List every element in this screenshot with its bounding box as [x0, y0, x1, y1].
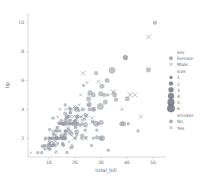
x-tick-label: 50 — [150, 160, 156, 165]
data-point — [109, 67, 115, 73]
data-point — [123, 55, 128, 60]
data-point — [70, 132, 74, 136]
legend-entry-label: 3 — [177, 88, 180, 93]
data-point — [98, 92, 103, 97]
legend-title: smoker — [177, 113, 194, 118]
legend-entry-label: 1 — [177, 75, 180, 80]
legend-marker-circle-icon — [167, 105, 175, 113]
data-point — [75, 115, 79, 119]
y-tick-label: 4 — [21, 107, 24, 112]
data-point — [36, 151, 39, 154]
data-point — [55, 137, 58, 140]
legend-entry-label: 6 — [177, 106, 180, 111]
data-point — [83, 123, 88, 128]
figure-background — [0, 0, 207, 181]
data-point — [84, 129, 87, 132]
data-point — [100, 84, 105, 89]
data-point — [114, 98, 118, 102]
data-point — [74, 107, 79, 112]
data-point — [70, 122, 73, 125]
data-point — [86, 97, 91, 102]
data-point — [88, 90, 93, 95]
data-point — [95, 136, 99, 140]
data-point — [79, 124, 82, 127]
x-tick-label: 40 — [124, 160, 130, 165]
legend-entry-label: 4 — [177, 94, 180, 99]
data-point — [137, 130, 140, 133]
data-point — [90, 144, 93, 147]
data-point — [48, 128, 51, 131]
legend-marker-circle-icon — [169, 57, 172, 60]
data-point — [58, 122, 61, 125]
legend-marker-circle-icon — [168, 93, 174, 99]
x-tick-label: 20 — [72, 160, 78, 165]
data-point — [43, 148, 46, 151]
data-point — [94, 71, 98, 75]
data-point — [62, 144, 65, 147]
data-point — [40, 151, 43, 154]
legend-marker-circle-icon — [170, 76, 173, 79]
data-point — [75, 133, 78, 136]
data-point — [56, 126, 59, 129]
data-point — [99, 135, 104, 140]
data-point — [93, 121, 98, 126]
legend-entry-label: Male — [177, 62, 188, 67]
figure-canvas: 1020304050246810 sexFemaleMalesize123456… — [0, 0, 207, 181]
data-point — [88, 107, 92, 111]
data-point — [127, 122, 130, 125]
data-point — [69, 111, 72, 114]
legend-title: sex — [177, 50, 185, 55]
data-point — [87, 104, 90, 107]
data-point — [82, 84, 85, 87]
data-point — [99, 120, 104, 125]
legend-marker-circle-icon — [169, 120, 172, 123]
data-point — [92, 108, 95, 111]
data-point — [106, 93, 109, 96]
data-point — [107, 149, 110, 152]
data-point — [52, 117, 55, 120]
data-point — [60, 119, 63, 122]
data-point — [48, 148, 51, 151]
y-tick-label: 6 — [21, 78, 24, 83]
y-axis-label: tip — [4, 82, 11, 89]
data-point — [69, 119, 72, 122]
y-tick-label: 2 — [21, 136, 24, 141]
legend-entry-label: 2 — [177, 82, 180, 87]
data-point — [64, 104, 67, 107]
data-point — [53, 134, 56, 137]
data-point — [62, 122, 65, 125]
data-point — [44, 138, 46, 140]
data-point — [97, 103, 103, 109]
legend-entry-label: 5 — [177, 100, 180, 105]
data-point — [60, 134, 63, 137]
legend-entry-label: Female — [177, 56, 194, 61]
data-point — [146, 68, 151, 73]
legend-entry-label: No — [177, 119, 183, 124]
x-tick-label: 10 — [46, 160, 52, 165]
data-point — [62, 136, 65, 139]
legend-marker-circle-icon — [169, 82, 173, 86]
data-point — [66, 151, 69, 154]
x-axis-label: total_bill — [95, 167, 116, 174]
x-tick-label: 30 — [98, 160, 104, 165]
data-point — [56, 130, 59, 133]
data-point — [69, 146, 73, 150]
data-point — [121, 121, 126, 126]
y-tick-label: 8 — [21, 49, 24, 54]
legend-entry-label: Yes — [176, 126, 185, 131]
data-point — [48, 137, 51, 140]
y-tick-label: 10 — [18, 20, 24, 25]
data-point — [103, 100, 108, 105]
data-point — [95, 129, 98, 132]
data-point — [64, 130, 67, 133]
data-point — [92, 137, 95, 140]
legend-title: size — [177, 69, 186, 74]
data-point — [80, 137, 83, 140]
data-point — [153, 21, 157, 25]
scatterplot-svg: 1020304050246810 sexFemaleMalesize123456… — [0, 0, 207, 181]
data-point — [105, 78, 110, 83]
legend-marker-circle-icon — [169, 87, 174, 92]
data-point — [81, 107, 85, 111]
data-point — [64, 132, 67, 135]
